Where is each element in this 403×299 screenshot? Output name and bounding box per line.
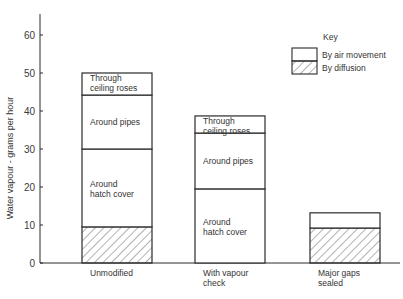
bar-segment: [310, 228, 380, 263]
segment-label: Through: [90, 73, 122, 83]
legend-swatch: [292, 48, 317, 61]
bar-segment: [310, 213, 380, 228]
segment-label: hatch cover: [90, 189, 134, 199]
legend-title: Key: [323, 32, 338, 42]
x-axis: UnmodifiedWith vapourcheckMajor gapsseal…: [40, 263, 400, 288]
y-tick-label: 30: [24, 144, 36, 155]
segment-label: ceiling roses: [90, 83, 137, 93]
bar-0: Aroundhatch coverAround pipesThroughceil…: [82, 73, 152, 263]
segment-label: Around: [90, 179, 118, 189]
y-tick-label: 10: [24, 220, 36, 231]
segment-label: hatch cover: [203, 227, 247, 237]
segment-label: Around: [203, 217, 231, 227]
stacked-bar-chart: 0102030405060 UnmodifiedWith vapourcheck…: [0, 0, 403, 299]
x-category-label: With vapour: [203, 268, 249, 278]
bars: Aroundhatch coverAround pipesThroughceil…: [82, 73, 380, 263]
legend: KeyBy air movementBy diffusion: [292, 32, 386, 74]
legend-swatch: [292, 61, 317, 74]
y-tick-label: 50: [24, 68, 36, 79]
bar-1: Aroundhatch coverAround pipesThroughceil…: [195, 116, 265, 263]
segment-label: Around pipes: [203, 156, 253, 166]
y-axis-title: Water vapour - grams per hour: [5, 97, 15, 220]
bar-2: [310, 213, 380, 263]
legend-label: By diffusion: [322, 63, 366, 73]
y-axis: 0102030405060: [24, 14, 43, 269]
y-tick-label: 20: [24, 182, 36, 193]
y-tick-label: 0: [29, 258, 35, 269]
bar-segment: [82, 227, 152, 263]
x-category-label: check: [203, 278, 226, 288]
y-tick-label: 40: [24, 106, 36, 117]
x-category-label: sealed: [318, 278, 343, 288]
legend-label: By air movement: [322, 50, 386, 60]
segment-label: Around pipes: [90, 117, 140, 127]
segment-label: ceiling roses: [203, 126, 250, 136]
x-category-label: Unmodified: [90, 268, 133, 278]
segment-label: Through: [203, 116, 235, 126]
x-category-label: Major gaps: [318, 268, 360, 278]
y-tick-label: 60: [24, 30, 36, 41]
